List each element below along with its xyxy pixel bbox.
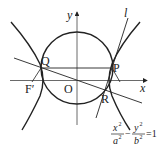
y-axis-label: y <box>66 8 73 22</box>
svg-text:2: 2 <box>119 121 122 127</box>
svg-text:x: x <box>112 122 118 133</box>
origin-label: O <box>64 82 73 96</box>
svg-text:y: y <box>133 122 139 133</box>
line-l-label: l <box>124 6 128 20</box>
hyperbola-diagram: y x O Q P R F′ l x 2 a 2 − y 2 b 2 =1 <box>0 0 168 155</box>
point-r-label: R <box>101 92 109 106</box>
svg-text:2: 2 <box>140 134 143 140</box>
focus-left-label: F′ <box>25 82 35 96</box>
segment-qf-left <box>32 68 41 82</box>
point-q-label: Q <box>41 54 50 68</box>
hyperbola-left-branch <box>11 22 43 130</box>
svg-text:2: 2 <box>140 121 143 127</box>
svg-text:=1: =1 <box>146 128 157 139</box>
svg-text:b: b <box>134 135 139 146</box>
hyperbola-equation: x 2 a 2 − y 2 b 2 =1 <box>111 121 157 146</box>
svg-text:2: 2 <box>119 134 122 140</box>
hyperbola-right-branch <box>109 22 140 130</box>
svg-text:−: − <box>125 128 131 139</box>
svg-text:a: a <box>113 135 118 146</box>
x-axis-label: x <box>139 81 146 95</box>
point-p-label: P <box>113 61 120 75</box>
